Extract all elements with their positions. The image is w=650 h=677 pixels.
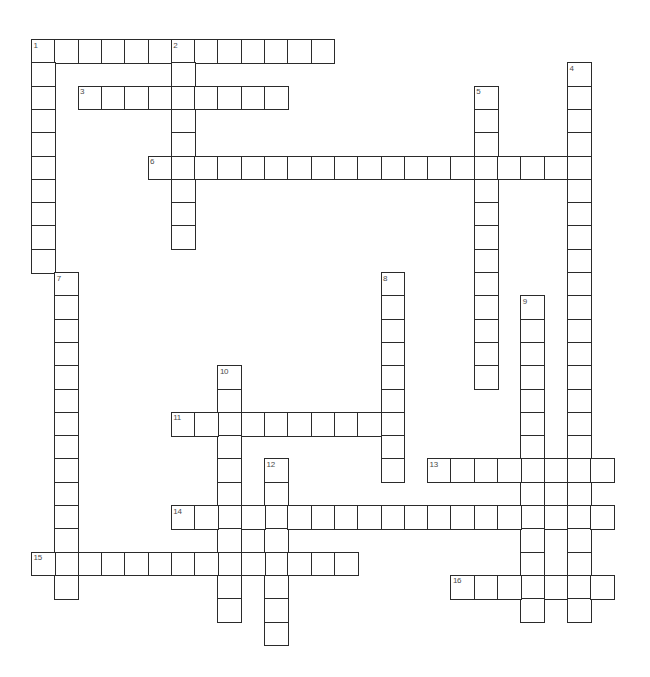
crossword-cell[interactable] [148, 86, 173, 111]
crossword-cell[interactable] [31, 39, 56, 64]
crossword-cell[interactable] [567, 598, 592, 623]
crossword-cell[interactable] [450, 156, 475, 181]
crossword-cell[interactable] [474, 132, 499, 157]
crossword-cell[interactable] [567, 575, 592, 600]
crossword-cell[interactable] [520, 598, 545, 623]
crossword-cell[interactable] [54, 528, 79, 553]
crossword-cell[interactable] [124, 86, 149, 111]
crossword-cell[interactable] [171, 179, 196, 204]
crossword-cell[interactable] [54, 412, 79, 437]
crossword-cell[interactable] [404, 156, 429, 181]
crossword-cell[interactable] [78, 39, 103, 64]
crossword-cell[interactable] [241, 412, 266, 437]
crossword-cell[interactable] [194, 86, 219, 111]
crossword-cell[interactable] [54, 458, 79, 483]
crossword-cell[interactable] [567, 412, 592, 437]
crossword-cell[interactable] [124, 39, 149, 64]
crossword-cell[interactable] [217, 86, 242, 111]
crossword-cell[interactable] [334, 552, 359, 577]
crossword-cell[interactable] [544, 156, 569, 181]
crossword-cell[interactable] [264, 86, 289, 111]
crossword-cell[interactable] [427, 505, 452, 530]
crossword-cell[interactable] [474, 365, 499, 390]
crossword-cell[interactable] [520, 319, 545, 344]
crossword-cell[interactable] [334, 156, 359, 181]
crossword-cell[interactable] [264, 575, 289, 600]
crossword-cell[interactable] [217, 552, 242, 577]
crossword-cell[interactable] [217, 365, 242, 390]
crossword-cell[interactable] [31, 86, 56, 111]
crossword-cell[interactable] [171, 412, 196, 437]
crossword-cell[interactable] [148, 156, 173, 181]
crossword-cell[interactable] [194, 39, 219, 64]
crossword-cell[interactable] [567, 482, 592, 507]
crossword-cell[interactable] [78, 552, 103, 577]
crossword-cell[interactable] [54, 365, 79, 390]
crossword-cell[interactable] [567, 319, 592, 344]
crossword-cell[interactable] [520, 295, 545, 320]
crossword-cell[interactable] [287, 39, 312, 64]
crossword-cell[interactable] [101, 86, 126, 111]
crossword-cell[interactable] [381, 389, 406, 414]
crossword-cell[interactable] [54, 342, 79, 367]
crossword-cell[interactable] [381, 458, 406, 483]
crossword-cell[interactable] [54, 435, 79, 460]
crossword-cell[interactable] [287, 552, 312, 577]
crossword-cell[interactable] [31, 225, 56, 250]
crossword-cell[interactable] [171, 225, 196, 250]
crossword-cell[interactable] [544, 575, 569, 600]
crossword-cell[interactable] [474, 575, 499, 600]
crossword-cell[interactable] [381, 505, 406, 530]
crossword-cell[interactable] [497, 156, 522, 181]
crossword-cell[interactable] [194, 505, 219, 530]
crossword-cell[interactable] [264, 39, 289, 64]
crossword-cell[interactable] [567, 86, 592, 111]
crossword-cell[interactable] [171, 552, 196, 577]
crossword-cell[interactable] [217, 435, 242, 460]
crossword-cell[interactable] [241, 39, 266, 64]
crossword-cell[interactable] [241, 552, 266, 577]
crossword-cell[interactable] [311, 552, 336, 577]
crossword-cell[interactable] [54, 319, 79, 344]
crossword-cell[interactable] [217, 412, 242, 437]
crossword-cell[interactable] [520, 412, 545, 437]
crossword-cell[interactable] [381, 295, 406, 320]
crossword-cell[interactable] [357, 156, 382, 181]
crossword-cell[interactable] [520, 389, 545, 414]
crossword-cell[interactable] [381, 435, 406, 460]
crossword-cell[interactable] [474, 86, 499, 111]
crossword-cell[interactable] [544, 458, 569, 483]
crossword-cell[interactable] [287, 505, 312, 530]
crossword-cell[interactable] [31, 179, 56, 204]
crossword-cell[interactable] [567, 225, 592, 250]
crossword-cell[interactable] [357, 412, 382, 437]
crossword-cell[interactable] [217, 482, 242, 507]
crossword-cell[interactable] [520, 156, 545, 181]
crossword-cell[interactable] [474, 319, 499, 344]
crossword-cell[interactable] [544, 505, 569, 530]
crossword-cell[interactable] [334, 412, 359, 437]
crossword-cell[interactable] [264, 156, 289, 181]
crossword-cell[interactable] [31, 62, 56, 87]
crossword-cell[interactable] [474, 458, 499, 483]
crossword-cell[interactable] [520, 482, 545, 507]
crossword-cell[interactable] [381, 342, 406, 367]
crossword-cell[interactable] [171, 202, 196, 227]
crossword-cell[interactable] [171, 505, 196, 530]
crossword-cell[interactable] [474, 342, 499, 367]
crossword-cell[interactable] [590, 505, 615, 530]
crossword-cell[interactable] [54, 389, 79, 414]
crossword-cell[interactable] [474, 179, 499, 204]
crossword-cell[interactable] [217, 528, 242, 553]
crossword-cell[interactable] [567, 389, 592, 414]
crossword-cell[interactable] [217, 39, 242, 64]
crossword-cell[interactable] [567, 179, 592, 204]
crossword-cell[interactable] [311, 156, 336, 181]
crossword-cell[interactable] [474, 225, 499, 250]
crossword-cell[interactable] [194, 156, 219, 181]
crossword-cell[interactable] [264, 505, 289, 530]
crossword-cell[interactable] [194, 552, 219, 577]
crossword-cell[interactable] [287, 156, 312, 181]
crossword-cell[interactable] [567, 272, 592, 297]
crossword-cell[interactable] [171, 156, 196, 181]
